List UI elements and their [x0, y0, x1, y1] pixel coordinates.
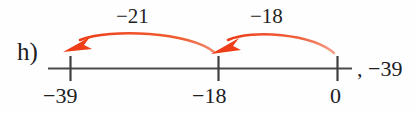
tick-label-zero: 0 [330, 85, 341, 107]
item-label: h) [17, 39, 38, 64]
jump-arc-right [228, 34, 334, 53]
trailing-answer-text: , −39 [357, 58, 402, 80]
jump-arrowhead-left [63, 37, 92, 52]
jump-arc-left [80, 33, 214, 52]
jump-label-right: −18 [250, 6, 283, 27]
tick-label-minus39: −39 [43, 85, 77, 107]
jump-arrowhead-right [211, 38, 241, 54]
number-line-diagram: h) −21 −18 −39 −18 0 , −39 [0, 0, 417, 114]
jump-label-left: −21 [116, 6, 149, 27]
tick-label-minus18: −18 [192, 85, 226, 107]
